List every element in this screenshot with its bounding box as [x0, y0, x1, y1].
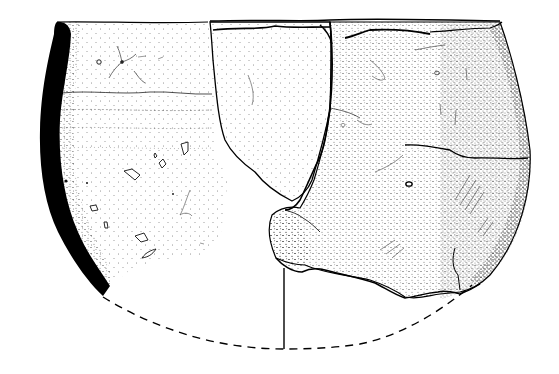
- vessel-illustration: [0, 0, 559, 374]
- sherd-central: [210, 22, 331, 201]
- pottery-drawing: [0, 0, 559, 374]
